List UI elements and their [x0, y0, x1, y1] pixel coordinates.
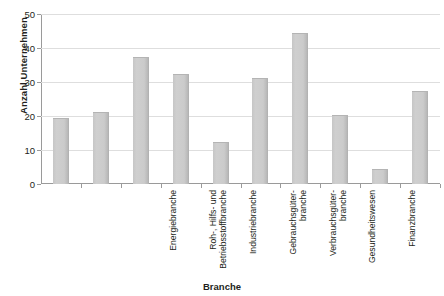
y-tick-label: 40 — [24, 43, 35, 54]
x-tick-mark — [161, 184, 162, 188]
x-category-label: Energiebranche — [169, 190, 179, 294]
bar — [372, 169, 388, 184]
bar — [53, 118, 69, 184]
x-tick-mark — [440, 184, 441, 188]
x-category-label: Gebrauchsgüter- branche — [289, 190, 308, 294]
y-tick-mark — [37, 150, 41, 151]
y-tick-label: 30 — [24, 77, 35, 88]
bar — [332, 115, 348, 184]
x-tick-mark — [121, 184, 122, 188]
x-category-label: Finanzbranche — [408, 190, 418, 294]
x-tick-mark — [201, 184, 202, 188]
x-tick-mark — [280, 184, 281, 188]
x-tick-mark — [360, 184, 361, 188]
bar-chart: Anzahl Unternehmen 01020304050 Branche E… — [0, 0, 444, 296]
bar — [173, 74, 189, 184]
bar — [133, 57, 149, 184]
gridline — [41, 14, 440, 15]
x-tick-mark — [81, 184, 82, 188]
bar — [412, 91, 428, 184]
bar — [292, 33, 308, 184]
gridline — [41, 82, 440, 83]
y-tick-label: 50 — [24, 9, 35, 20]
y-tick-mark — [37, 14, 41, 15]
x-tick-mark — [320, 184, 321, 188]
x-category-label: Gesundheitswesen — [368, 190, 378, 294]
gridline — [41, 48, 440, 49]
x-category-label: Industriebranche — [249, 190, 259, 294]
y-tick-mark — [37, 116, 41, 117]
x-category-label: Roh-, Hilfs- und Betriebsstoffbranche — [209, 190, 228, 294]
y-tick-mark — [37, 184, 41, 185]
x-category-label: Verbrauchsgüter- branche — [329, 190, 348, 294]
bar — [252, 78, 268, 184]
y-tick-label: 10 — [24, 145, 35, 156]
x-tick-mark — [241, 184, 242, 188]
x-tick-mark — [400, 184, 401, 188]
bar — [93, 112, 109, 184]
bar — [213, 142, 229, 184]
y-axis-line — [41, 14, 42, 184]
y-tick-mark — [37, 48, 41, 49]
y-tick-label: 20 — [24, 111, 35, 122]
y-tick-mark — [37, 82, 41, 83]
y-tick-label: 0 — [30, 179, 35, 190]
plot-area: 01020304050 — [41, 14, 440, 184]
